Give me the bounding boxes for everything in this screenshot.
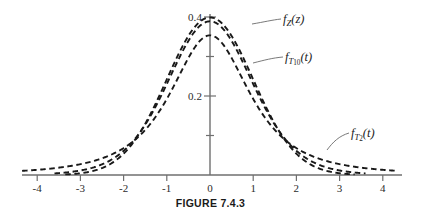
x-tick-label--4: -4 bbox=[24, 182, 50, 194]
y-tick-label-0.2: 0.2 bbox=[176, 90, 202, 102]
x-tick-label--1: -1 bbox=[154, 182, 180, 194]
x-tick-label-4: 4 bbox=[370, 182, 396, 194]
x-tick-label-1: 1 bbox=[240, 182, 266, 194]
label-f-t10-df: 10 bbox=[293, 59, 300, 67]
x-tick-label-0: 0 bbox=[197, 182, 223, 194]
x-tick-label--3: -3 bbox=[67, 182, 93, 194]
label-f-t2-df: 2 bbox=[359, 135, 363, 143]
curve-label-f-t2: fT2(t) bbox=[351, 126, 375, 141]
x-tick-label-2: 2 bbox=[283, 182, 309, 194]
label-f-z-arg: (z) bbox=[291, 12, 304, 26]
curve-label-f-t10: fT10(t) bbox=[285, 50, 312, 65]
leader-line-f-t10 bbox=[253, 57, 283, 63]
y-tick-label-0.4: 0.4 bbox=[176, 11, 202, 23]
leader-line-f-z bbox=[252, 19, 281, 24]
label-f-z-subscript: Z bbox=[286, 18, 291, 28]
x-tick-label--2: -2 bbox=[111, 182, 137, 194]
leader-lines bbox=[252, 19, 349, 150]
figure-container: 0.4 0.2 -4-3-2-101234 fZ(z) fT10(t) fT2(… bbox=[0, 0, 421, 220]
figure-caption: FIGURE 7.4.3 bbox=[0, 197, 421, 209]
x-tick-label-3: 3 bbox=[327, 182, 353, 194]
curve-label-f-z: fZ(z) bbox=[283, 12, 304, 27]
x-axis-ticks bbox=[37, 175, 383, 181]
leader-line-f-t2 bbox=[327, 133, 349, 150]
label-f-t10-arg: (t) bbox=[300, 50, 312, 64]
label-f-t2-arg: (t) bbox=[363, 126, 375, 140]
